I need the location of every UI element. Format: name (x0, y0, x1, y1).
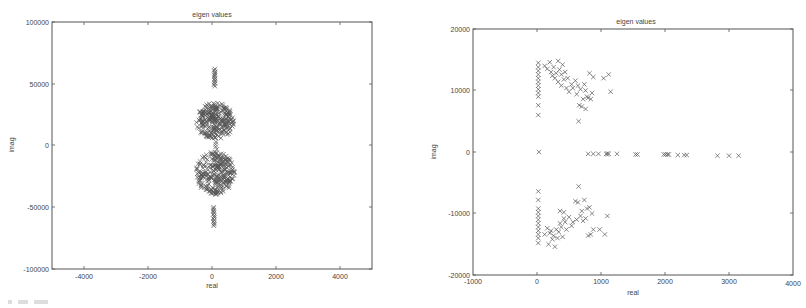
data-point-marker (581, 97, 585, 101)
data-point-marker (536, 217, 540, 221)
data-point-marker (590, 211, 594, 215)
data-point-marker (598, 227, 602, 231)
right-plot-title: eigen values (616, 18, 656, 26)
data-point-marker (536, 65, 540, 69)
data-point-marker (615, 152, 619, 156)
clipped-caption-fragment (8, 292, 128, 300)
data-point-marker (582, 82, 586, 86)
data-point-marker (608, 90, 612, 94)
data-point-marker (550, 237, 554, 241)
data-point-marker (536, 80, 540, 84)
data-point-marker (603, 232, 607, 236)
data-point-marker (558, 221, 562, 225)
left-ytick-label: -50000 (27, 204, 49, 211)
data-point-marker (569, 82, 573, 86)
data-point-marker (590, 91, 594, 95)
data-point-marker (553, 245, 557, 249)
left-xlabel: real (206, 282, 218, 289)
right-ytick-label: 0 (466, 149, 470, 156)
data-point-marker (576, 184, 580, 188)
data-point-marker (546, 242, 550, 246)
left-y-axis: 100000 50000 0 -50000 -100000 (23, 19, 372, 273)
data-point-marker (536, 221, 540, 225)
data-point-marker (551, 233, 555, 237)
data-point-marker (583, 88, 587, 92)
data-point-marker (576, 119, 580, 123)
right-ytick-label: 20000 (451, 26, 471, 33)
left-plot: eigen values 100000 50000 0 -50000 -1000… (8, 11, 372, 289)
data-point-marker (562, 210, 566, 214)
data-point-marker (560, 235, 564, 239)
caption-mark (8, 300, 12, 304)
data-point-marker (536, 69, 540, 73)
left-xtick-label: 2000 (268, 273, 284, 280)
data-point-marker (556, 80, 560, 84)
data-point-marker (583, 107, 587, 111)
data-point-marker (559, 225, 563, 229)
data-point-marker (567, 90, 571, 94)
left-ytick-label: 100000 (26, 19, 49, 26)
data-point-marker (571, 86, 575, 90)
data-point-marker (578, 87, 582, 91)
data-point-marker (536, 61, 540, 65)
data-point-marker (562, 216, 566, 220)
data-point-marker (574, 217, 578, 221)
data-point-marker (563, 70, 567, 74)
data-point-marker (536, 189, 540, 193)
data-point-marker (582, 198, 586, 202)
data-point-marker (542, 232, 546, 236)
data-point-marker (536, 241, 540, 245)
data-point-marker (682, 153, 686, 157)
data-point-marker (536, 113, 540, 117)
data-point-marker (542, 64, 546, 68)
data-point-marker (536, 198, 540, 202)
data-point-marker (606, 72, 610, 76)
data-point-marker (736, 153, 740, 157)
right-xtick-label: -1000 (464, 278, 482, 285)
data-point-marker (536, 91, 540, 95)
data-point-marker (685, 153, 689, 157)
right-y-axis: 20000 10000 0 -10000 -20000 (448, 26, 793, 279)
data-point-marker (605, 214, 609, 218)
left-ytick-label: 0 (45, 142, 49, 149)
right-ylabel: imag (430, 144, 438, 159)
data-point-marker (558, 209, 562, 213)
data-point-marker (536, 232, 540, 236)
caption-mark (34, 300, 48, 304)
data-point-marker (549, 70, 553, 74)
data-point-marker (213, 67, 217, 71)
data-point-marker (536, 94, 540, 98)
data-point-marker (536, 72, 540, 76)
right-plot-frame (473, 29, 793, 275)
data-point-marker (551, 65, 555, 69)
data-point-marker (562, 77, 566, 81)
data-point-marker (555, 236, 559, 240)
data-point-marker (536, 225, 540, 229)
data-point-marker (536, 229, 540, 233)
data-point-marker (536, 76, 540, 80)
data-point-marker (536, 236, 540, 240)
data-point-marker (536, 83, 540, 87)
left-plot-title: eigen values (192, 11, 232, 19)
data-point-marker (591, 152, 595, 156)
right-xtick-label: 4000 (785, 280, 801, 287)
left-plot-frame (52, 22, 372, 269)
left-xtick-label: 4000 (332, 273, 348, 280)
right-ytick-label: 10000 (451, 87, 471, 94)
data-point-marker (564, 227, 568, 231)
right-xlabel: real (627, 289, 639, 296)
data-point-marker (580, 209, 584, 213)
data-point-marker (576, 83, 580, 87)
data-point-marker (573, 78, 577, 82)
data-point-marker (569, 224, 573, 228)
left-ylabel: imag (8, 137, 16, 152)
right-xtick-label: 0 (535, 278, 539, 285)
data-point-marker (545, 67, 549, 71)
data-point-marker (564, 86, 568, 90)
left-xtick-label: -2000 (139, 273, 157, 280)
left-x-axis: -4000 -2000 0 2000 4000 (75, 22, 348, 280)
data-point-marker (559, 72, 563, 76)
data-point-marker (557, 230, 561, 234)
data-point-marker (563, 220, 567, 224)
data-point-marker (596, 152, 600, 156)
